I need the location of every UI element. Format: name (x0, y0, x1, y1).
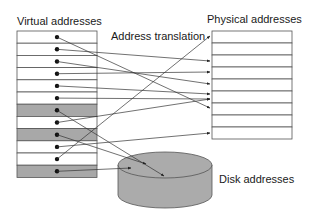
virtual-addresses-label: Virtual addresses (17, 16, 102, 27)
physical-row (212, 115, 292, 127)
physical-row (212, 55, 292, 67)
disk-addresses-label: Disk addresses (219, 174, 294, 185)
physical-row (212, 127, 292, 139)
physical-address-table (212, 31, 292, 139)
physical-addresses-label: Physical addresses (207, 14, 302, 25)
address-translation-label: Address translation (111, 31, 205, 42)
physical-row (212, 43, 292, 55)
physical-row (212, 103, 292, 115)
disk-icon (118, 152, 212, 208)
physical-row (212, 31, 292, 43)
virtual-address-table (17, 31, 97, 177)
physical-row (212, 91, 292, 103)
physical-row (212, 67, 292, 79)
physical-row (212, 79, 292, 91)
disk-top (118, 152, 212, 178)
